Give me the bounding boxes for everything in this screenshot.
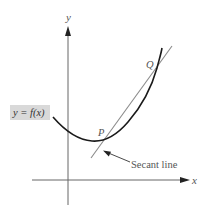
x-axis-arrow-icon xyxy=(180,177,190,183)
y-axis-label: y xyxy=(65,11,71,23)
secant-line-label: Secant line xyxy=(131,159,178,170)
secant-line xyxy=(91,46,172,158)
x-axis xyxy=(32,177,190,183)
point-q-label: Q xyxy=(146,59,154,70)
point-p-label: P xyxy=(97,127,105,138)
secant-pointer xyxy=(103,151,130,163)
secant-line-diagram: y x y = f(x) P Q Secant line xyxy=(0,0,204,215)
function-label: y = f(x) xyxy=(10,105,50,120)
function-label-text: y = f(x) xyxy=(12,107,45,119)
pointer-arrow-icon xyxy=(103,151,111,157)
y-axis-arrow-icon xyxy=(65,26,71,36)
y-axis xyxy=(65,26,71,205)
x-axis-label: x xyxy=(191,174,197,186)
